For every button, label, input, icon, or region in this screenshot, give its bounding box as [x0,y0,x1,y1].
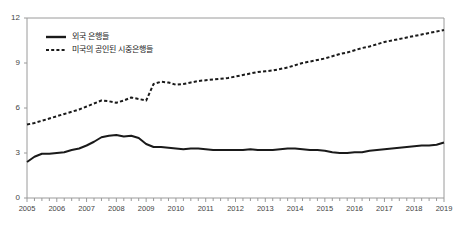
y-axis-tick-label: 3 [2,149,20,157]
chart-legend: 외국 은행들 미국의 공인된 시중은행들 [46,30,153,56]
y-axis-tick-label: 12 [2,14,20,22]
legend-item-solid: 외국 은행들 [46,30,153,43]
legend-swatch-solid-icon [46,32,66,42]
legend-item-dashed: 미국의 공인된 시중은행들 [46,43,153,56]
series-line-foreign-banks [27,135,444,162]
legend-label-foreign-banks: 외국 은행들 [72,33,109,41]
chart-container: 036912 200520062007200820092010201120122… [0,0,455,228]
y-axis-tick-label: 9 [2,59,20,67]
legend-swatch-dashed-icon [46,45,66,55]
legend-label-us-chartered-banks: 미국의 공인된 시중은행들 [72,46,153,54]
y-axis-tick-label: 6 [2,104,20,112]
x-axis-tick-label: 2019 [427,205,455,213]
y-axis-tick-label: 0 [2,194,20,202]
